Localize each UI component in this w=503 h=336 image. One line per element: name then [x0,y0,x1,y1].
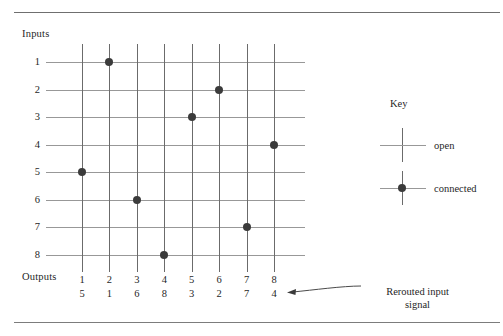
top-divider-rule [14,12,500,13]
connection-dot-in6-out3 [133,196,141,204]
rerouted-signal-annotation: Rerouted input signal [365,285,470,311]
connection-dot-in4-out8 [270,141,278,149]
input-label-8: 8 [24,249,40,260]
key-open-horizontal-line [380,145,426,146]
input-line-7 [46,227,305,228]
output-label-4: 4 [155,274,173,285]
output-source-label-7: 7 [238,288,256,299]
output-label-8: 8 [265,274,283,285]
output-label-6: 6 [210,274,228,285]
input-label-5: 5 [24,166,40,177]
annotation-line-1: Rerouted input [386,286,449,297]
output-source-label-2: 1 [100,288,118,299]
connection-dot-in7-out7 [243,223,251,231]
output-source-label-4: 8 [155,288,173,299]
output-line-1 [82,44,83,272]
output-line-4 [164,44,165,272]
key-title: Key [390,98,408,109]
output-line-8 [274,44,275,272]
output-label-7: 7 [238,274,256,285]
input-label-7: 7 [24,221,40,232]
key-open-symbol [380,128,426,162]
connection-dot-in3-out5 [188,113,196,121]
rerouted-signal-arrow-icon [283,281,363,305]
output-label-1: 1 [73,274,91,285]
output-source-label-6: 2 [210,288,228,299]
output-source-label-3: 6 [128,288,146,299]
outputs-axis-label: Outputs [22,271,57,282]
connection-dot-in5-out1 [78,168,86,176]
output-label-5: 5 [183,274,201,285]
input-line-1 [46,62,305,63]
input-line-2 [46,90,305,91]
figure-canvas: Inputs Outputs 12345678 12345678 5168327… [0,0,503,336]
input-label-1: 1 [24,56,40,67]
connection-dot-in2-out6 [215,86,223,94]
key-connected-dot-icon [398,184,406,192]
annotation-line-2: signal [365,298,470,311]
bottom-divider-rule [14,322,500,323]
key-connected-label: connected [434,183,477,194]
connection-dot-in8-out4 [160,251,168,259]
output-line-3 [137,44,138,272]
output-source-label-1: 5 [73,288,91,299]
input-line-8 [46,255,305,256]
key-connected-symbol [380,171,426,205]
inputs-axis-label: Inputs [22,28,49,39]
input-line-4 [46,145,305,146]
input-line-6 [46,200,305,201]
key-open-label: open [434,140,454,151]
input-label-3: 3 [24,111,40,122]
output-label-2: 2 [100,274,118,285]
output-line-5 [192,44,193,272]
connection-dot-in1-out2 [105,58,113,66]
output-source-label-5: 3 [183,288,201,299]
output-label-3: 3 [128,274,146,285]
input-label-2: 2 [24,84,40,95]
output-line-6 [219,44,220,272]
input-line-3 [46,117,305,118]
output-line-2 [109,44,110,272]
input-label-6: 6 [24,194,40,205]
input-label-4: 4 [24,139,40,150]
output-source-label-8: 4 [265,288,283,299]
output-line-7 [247,44,248,272]
